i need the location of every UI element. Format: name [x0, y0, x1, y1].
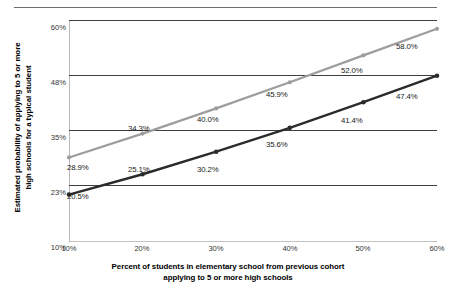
- x-axis-title: Percent of students in elementary school…: [48, 261, 408, 283]
- x-tick-label-50: 50%: [343, 244, 383, 253]
- data-point-lower-2: [214, 149, 219, 154]
- x-tick-label-60: 60%: [417, 244, 451, 253]
- series-lower: [67, 73, 440, 197]
- x-tick-label-10: 10%: [49, 244, 89, 253]
- data-point-upper-4: [361, 53, 365, 57]
- data-point-upper-0: [67, 155, 71, 159]
- x-tick-label-20: 20%: [122, 244, 162, 253]
- x-axis-title-line2: applying to 5 or more high schools: [163, 273, 292, 282]
- data-label-lower-3: 35.6%: [266, 140, 288, 149]
- data-label-upper-1: 34.3%: [128, 124, 150, 133]
- data-label-lower-2: 30.2%: [197, 165, 219, 174]
- data-label-upper-3: 45.9%: [266, 90, 288, 99]
- data-label-lower-0: 20.5%: [67, 192, 89, 201]
- data-label-upper-0: 28.9%: [67, 163, 89, 172]
- data-label-lower-1: 25.1%: [128, 165, 150, 174]
- x-axis-title-line1: Percent of students in elementary school…: [112, 262, 345, 271]
- data-point-lower-3: [288, 126, 293, 131]
- data-label-upper-4: 52.0%: [341, 66, 363, 75]
- data-point-upper-5: [435, 27, 439, 31]
- data-point-lower-4: [361, 100, 366, 105]
- data-label-lower-4: 41.4%: [341, 116, 363, 125]
- x-tick-label-40: 40%: [270, 244, 310, 253]
- data-label-lower-5: 47.4%: [396, 92, 418, 101]
- data-label-upper-5: 58.0%: [396, 42, 418, 51]
- data-point-lower-5: [435, 73, 440, 78]
- chart-figure: Estimated probability of applying to 5 o…: [0, 0, 451, 289]
- data-point-upper-2: [214, 106, 218, 110]
- x-tick-label-30: 30%: [196, 244, 236, 253]
- data-label-upper-2: 40.0%: [197, 115, 219, 124]
- data-point-upper-3: [288, 80, 292, 84]
